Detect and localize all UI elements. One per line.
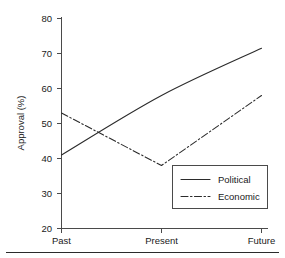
y-tick-group: 20 30 40 50 60 70 80 bbox=[41, 13, 61, 234]
y-tick-label-70: 70 bbox=[41, 48, 52, 59]
x-tick-label-future: Future bbox=[248, 235, 275, 246]
legend-box bbox=[173, 166, 268, 209]
chart-canvas: 20 30 40 50 60 70 80 Approval (%) Past P… bbox=[0, 0, 285, 258]
series-line-political bbox=[62, 48, 262, 155]
y-tick-label-50: 50 bbox=[41, 118, 52, 129]
legend-label-political: Political bbox=[218, 174, 251, 185]
legend: Political Economic bbox=[173, 166, 268, 209]
y-tick-label-20: 20 bbox=[41, 223, 52, 234]
y-tick-label-40: 40 bbox=[41, 153, 52, 164]
legend-label-economic: Economic bbox=[218, 191, 260, 202]
y-tick-label-30: 30 bbox=[41, 188, 52, 199]
x-tick-label-present: Present bbox=[145, 235, 178, 246]
series-group bbox=[62, 48, 262, 165]
x-tick-group: Past Present Future bbox=[52, 229, 275, 247]
series-line-economic bbox=[62, 96, 262, 166]
y-axis-title: Approval (%) bbox=[15, 96, 26, 151]
x-tick-label-past: Past bbox=[52, 235, 71, 246]
chart-figure: 20 30 40 50 60 70 80 Approval (%) Past P… bbox=[0, 0, 285, 258]
y-tick-label-80: 80 bbox=[41, 13, 52, 24]
y-tick-label-60: 60 bbox=[41, 83, 52, 94]
